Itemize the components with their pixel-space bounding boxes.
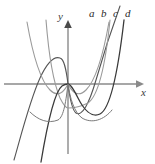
y-axis-arrow-icon <box>64 20 72 28</box>
curve-d <box>41 20 124 162</box>
curve-label-c: c <box>113 8 118 19</box>
curve-a <box>14 6 120 160</box>
y-axis-label: y <box>58 11 63 22</box>
math-graph-figure: y x a b c d <box>0 0 155 164</box>
curve-label-d: d <box>125 8 131 19</box>
curves-canvas <box>0 0 155 164</box>
curve-label-b: b <box>101 8 107 19</box>
curve-label-a: a <box>89 8 95 19</box>
x-axis-label: x <box>141 87 146 98</box>
axes-group <box>4 20 144 154</box>
